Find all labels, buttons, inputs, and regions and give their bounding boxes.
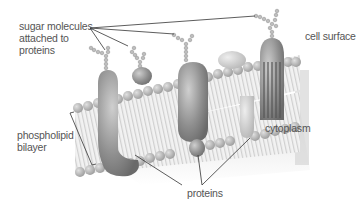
phospholipid-bilayer-label: phospholipid bilayer (17, 129, 74, 153)
sugar-molecules-label: sugar molecules attached to proteins (19, 20, 92, 56)
cytoplasm-label: cytoplasm (265, 122, 310, 134)
proteins-label: proteins (187, 187, 223, 199)
cell-surface-label: cell surface (305, 30, 356, 42)
sugar-chains (89, 9, 279, 70)
